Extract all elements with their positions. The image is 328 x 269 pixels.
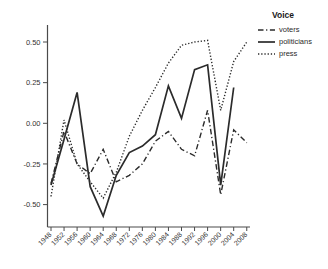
- svg-text:2008: 2008: [232, 231, 248, 247]
- legend-item-press: press: [258, 50, 326, 58]
- svg-text:2004: 2004: [219, 231, 235, 247]
- svg-text:0.50: 0.50: [26, 38, 41, 47]
- legend-item-voters: voters: [258, 26, 326, 34]
- svg-text:-0.50: -0.50: [23, 200, 40, 209]
- legend-label-voters: voters: [279, 26, 299, 34]
- svg-text:0.00: 0.00: [26, 119, 41, 128]
- legend-label-politicians: politicians: [279, 38, 312, 46]
- svg-text:1972: 1972: [115, 231, 131, 247]
- svg-text:1948: 1948: [37, 231, 53, 247]
- politicians-line-sample-icon: [258, 39, 275, 45]
- svg-text:1996: 1996: [193, 231, 209, 247]
- svg-text:0.25: 0.25: [26, 78, 41, 87]
- svg-text:1960: 1960: [76, 231, 92, 247]
- line-chart-figure: 0.500.250.00-0.25-0.50194819521956196019…: [0, 0, 328, 269]
- svg-text:2000: 2000: [206, 231, 222, 247]
- svg-text:1968: 1968: [102, 231, 118, 247]
- legend-item-politicians: politicians: [258, 38, 326, 46]
- press-line-sample-icon: [258, 51, 275, 57]
- svg-text:1984: 1984: [154, 231, 170, 247]
- svg-text:1956: 1956: [63, 231, 79, 247]
- voters-line-sample-icon: [258, 27, 275, 33]
- svg-text:1988: 1988: [167, 231, 183, 247]
- legend-label-press: press: [279, 50, 297, 58]
- svg-text:1964: 1964: [89, 231, 105, 247]
- chart-legend: Voice voters politicians press: [258, 10, 326, 62]
- svg-text:1980: 1980: [141, 231, 157, 247]
- legend-title: Voice: [272, 10, 326, 20]
- svg-text:1952: 1952: [50, 231, 66, 247]
- svg-text:1992: 1992: [180, 231, 196, 247]
- svg-text:1976: 1976: [128, 231, 144, 247]
- svg-text:-0.25: -0.25: [23, 160, 40, 169]
